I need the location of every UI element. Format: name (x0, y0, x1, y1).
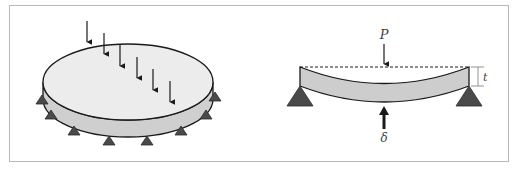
support-triangle-icon (103, 136, 115, 145)
thickness-label: t (483, 71, 488, 84)
load-label: P (379, 27, 389, 42)
beam-diagram: P δ t (287, 27, 488, 145)
support-triangle-icon (141, 136, 153, 145)
deflection-label: δ (380, 131, 387, 145)
figure-canvas: P δ t (0, 0, 520, 170)
circular-plate (36, 21, 221, 145)
deflection-arrowhead-icon (379, 106, 389, 115)
plate-top (43, 44, 213, 120)
deflected-beam (300, 67, 469, 102)
